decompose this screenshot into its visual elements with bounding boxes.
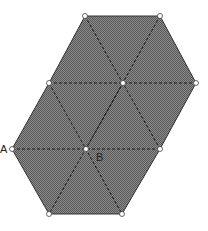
lattice-diagram: A B — [0, 0, 208, 231]
outer-shape — [12, 16, 196, 214]
label-b: B — [96, 151, 103, 163]
label-a: A — [0, 143, 8, 155]
